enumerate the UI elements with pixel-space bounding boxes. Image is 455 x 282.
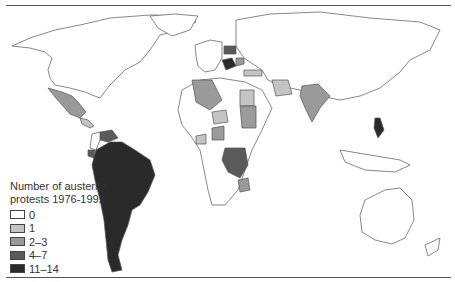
legend-item: 11–14 [10,262,106,276]
legend-item: 2–3 [10,235,106,249]
legend-swatch [10,224,25,233]
legend: Number of austerity protests 1976-1992 0… [10,180,106,276]
legend-item: 0 [10,208,106,222]
country-new-zealand [425,238,440,256]
legend-swatch [10,210,25,219]
legend-title-line1: Number of austerity [10,180,106,193]
legend-item: 1 [10,222,106,236]
legend-swatch [10,264,25,273]
country-europe-west [195,40,222,72]
country-asia [236,12,440,100]
legend-title-line2: protests 1976-1992 [10,193,106,206]
country-niger [212,110,228,124]
country-nigeria [212,126,224,140]
legend-swatch [10,251,25,260]
country-zambia [238,178,250,192]
legend-label: 4–7 [29,249,47,261]
country-poland [224,46,236,54]
country-ghana [196,134,206,144]
legend-label: 2–3 [29,236,47,248]
country-romania [236,58,244,66]
country-yugoslavia [222,58,236,70]
country-sudan [240,106,256,128]
country-iran [272,80,292,96]
country-colombia [90,132,100,150]
country-indonesia [340,150,410,172]
country-egypt [240,90,254,106]
country-venezuela [100,130,118,142]
legend-label: 1 [29,222,35,234]
country-central-america [80,118,94,128]
country-australia [360,188,414,244]
country-turkey [244,70,262,76]
country-africa [178,78,272,205]
legend-item: 4–7 [10,249,106,263]
legend-swatch [10,237,25,246]
country-philippines [374,118,384,138]
bottom-rule [6,277,451,278]
country-mexico [48,88,86,118]
legend-label: 11–14 [29,263,59,275]
legend-label: 0 [29,209,35,221]
